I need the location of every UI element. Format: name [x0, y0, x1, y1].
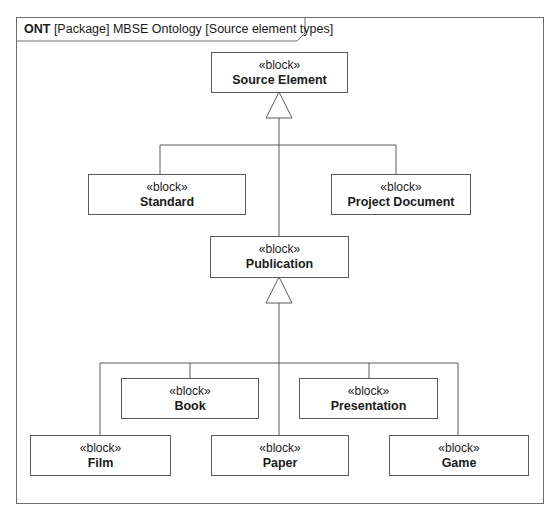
stereotype-label: «block» [212, 58, 347, 72]
block-paper[interactable]: «block» Paper [211, 435, 349, 476]
generalization-arrowhead-icon [266, 277, 292, 303]
stereotype-label: «block» [122, 384, 258, 398]
block-name: Book [122, 398, 258, 414]
frame-kind: ONT [24, 22, 50, 36]
stereotype-label: «block» [212, 441, 348, 455]
block-name: Publication [211, 256, 348, 272]
block-film[interactable]: «block» Film [30, 435, 171, 476]
stereotype-label: «block» [31, 441, 170, 455]
block-name: Standard [89, 194, 245, 210]
block-source-element[interactable]: «block» Source Element [211, 52, 348, 93]
block-name: Source Element [212, 72, 347, 88]
stereotype-label: «block» [211, 242, 348, 256]
stereotype-label: «block» [89, 180, 245, 194]
stereotype-label: «block» [390, 441, 528, 455]
block-book[interactable]: «block» Book [121, 378, 259, 419]
block-name: Paper [212, 455, 348, 471]
block-standard[interactable]: «block» Standard [88, 174, 246, 215]
generalization-arrowhead-icon [266, 92, 292, 118]
frame-title-text: [Package] MBSE Ontology [Source element … [54, 22, 333, 36]
frame-title: ONT [Package] MBSE Ontology [Source elem… [24, 22, 333, 36]
block-name: Film [31, 455, 170, 471]
block-project-document[interactable]: «block» Project Document [331, 174, 471, 215]
stereotype-label: «block» [300, 384, 437, 398]
stereotype-label: «block» [332, 180, 470, 194]
block-name: Presentation [300, 398, 437, 414]
block-game[interactable]: «block» Game [389, 435, 529, 476]
block-name: Project Document [332, 194, 470, 210]
block-presentation[interactable]: «block» Presentation [299, 378, 438, 419]
block-name: Game [390, 455, 528, 471]
block-publication[interactable]: «block» Publication [210, 236, 349, 278]
